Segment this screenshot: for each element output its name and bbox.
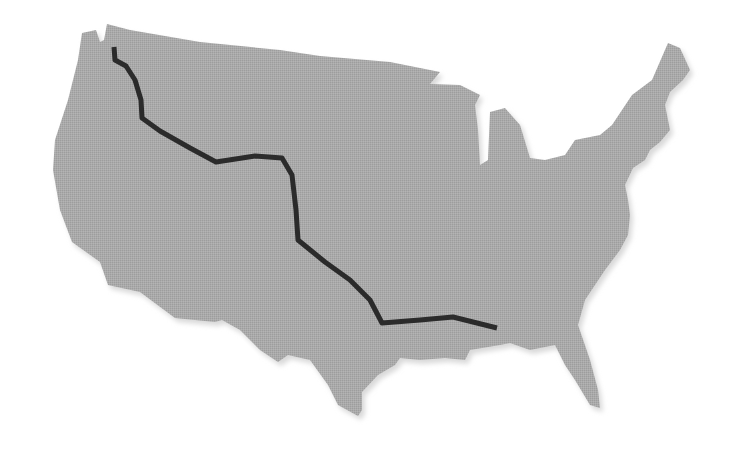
map-container: Route across the contiguous United State… — [0, 0, 748, 461]
land-mass — [53, 24, 690, 416]
us-map — [0, 0, 748, 461]
